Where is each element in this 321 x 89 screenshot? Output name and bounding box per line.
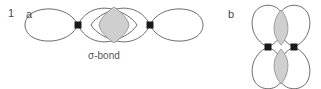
panel-b-label: b <box>228 9 234 20</box>
panel-a-right-nucleus-marker <box>147 22 154 29</box>
orbital-diagram-canvas <box>0 0 321 89</box>
orbital-overlap-figure: 1 a σ-bond b <box>0 0 321 89</box>
panel-a-sigma-bond <box>25 7 203 43</box>
panel-b-left-nucleus-marker <box>265 44 272 51</box>
panel-a-left-nucleus-marker <box>75 22 82 29</box>
item-number-label: 1 <box>8 8 14 19</box>
panel-b-pi-overlap-bottom-region <box>274 49 288 84</box>
panel-a-sigma-overlap-region <box>99 7 129 43</box>
sigma-bond-caption: σ-bond <box>88 51 120 61</box>
panel-a-left-orbital-outer-lobe <box>25 9 78 41</box>
panel-a-right-orbital-outer-lobe <box>150 9 203 41</box>
panel-b-pi-overlap-top-region <box>274 10 288 45</box>
panel-b-right-nucleus-marker <box>291 44 298 51</box>
panel-a-label: a <box>26 9 32 20</box>
panel-b-pi-bond <box>252 5 310 89</box>
